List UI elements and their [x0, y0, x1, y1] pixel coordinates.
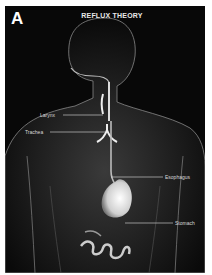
anatomy-illustration	[5, 6, 205, 273]
label-trachea: Trachea	[25, 129, 43, 135]
figure-title: REFLUX THEORY	[5, 12, 205, 19]
label-esophagus: Esophagus	[165, 174, 190, 180]
label-larynx: Larynx	[40, 112, 55, 118]
label-stomach: Stomach	[175, 220, 195, 226]
figure-panel: A REFLUX THEORY Larynx Trachea Esophagus…	[5, 6, 205, 273]
